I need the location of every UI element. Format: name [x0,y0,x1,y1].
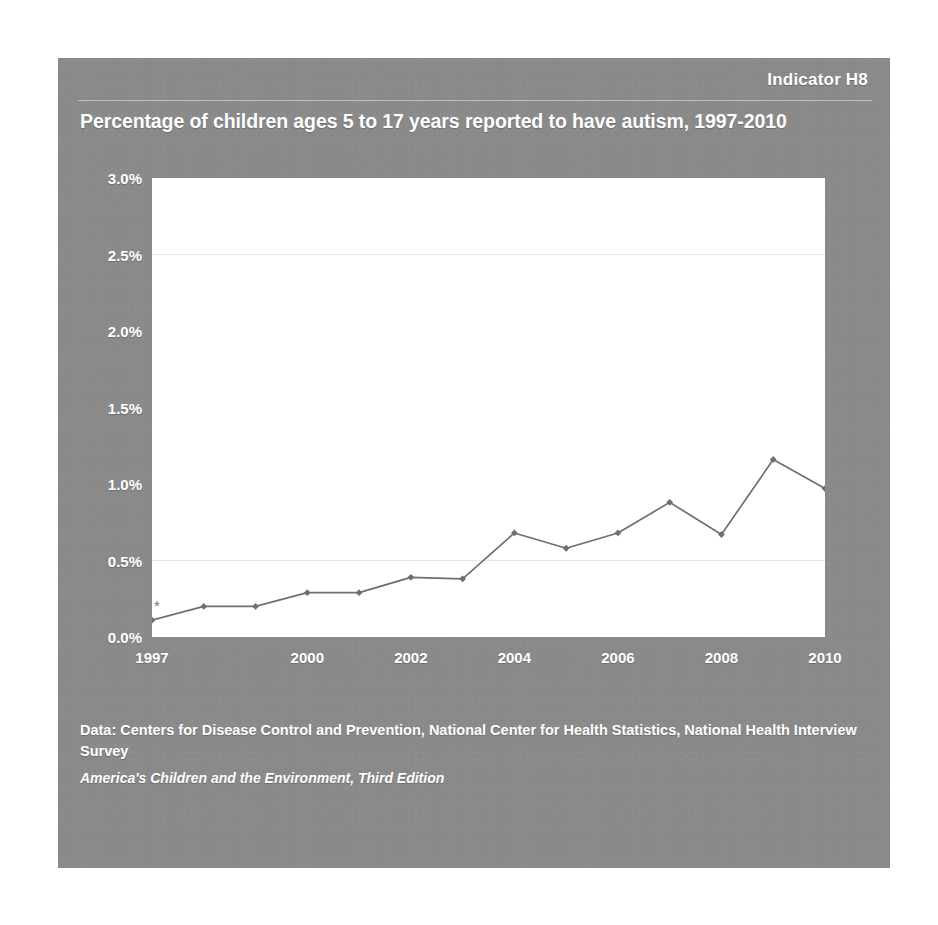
x-axis-tick-label: 2006 [601,649,634,666]
data-series-line [152,460,825,621]
header-divider [78,100,872,101]
data-point-marker [407,574,414,581]
y-axis-tick-label: 0.5% [108,552,142,569]
x-axis-tick-label: 2000 [291,649,324,666]
y-axis-tick-label: 3.0% [108,170,142,187]
footer-publication: America's Children and the Environment, … [80,770,870,786]
y-axis-tick-label: 2.5% [108,246,142,263]
figure-card: Indicator H8 Percentage of children ages… [58,58,890,868]
footer-source-line: Data: Centers for Disease Control and Pr… [80,720,870,761]
x-axis-tick-label: 1997 [135,649,168,666]
x-axis-tick-label: 2004 [498,649,531,666]
asterisk-annotation: * [154,597,160,614]
x-axis-tick-label: 2002 [394,649,427,666]
data-point-marker [152,617,155,624]
y-axis-tick-label: 1.5% [108,399,142,416]
data-point-marker [563,545,570,552]
data-point-marker [200,603,207,610]
y-axis-tick-label: 1.0% [108,476,142,493]
gridlines [152,255,825,561]
data-point-marker [304,589,311,596]
x-axis-tick-label: 2008 [705,649,738,666]
y-axis-tick-label: 0.0% [108,629,142,646]
x-axis-tick-label: 2010 [808,649,841,666]
chart-title: Percentage of children ages 5 to 17 year… [80,110,874,133]
data-point-markers [152,456,825,623]
y-axis-tick-label: 2.0% [108,323,142,340]
data-point-marker [356,589,363,596]
plot-area: * 0.0%0.5%1.0%1.5%2.0%2.5%3.0% 199720002… [152,178,825,637]
figure-footer: Data: Centers for Disease Control and Pr… [80,720,870,786]
line-chart-svg: * [152,178,825,637]
indicator-label: Indicator H8 [767,70,868,90]
data-point-marker [252,603,259,610]
